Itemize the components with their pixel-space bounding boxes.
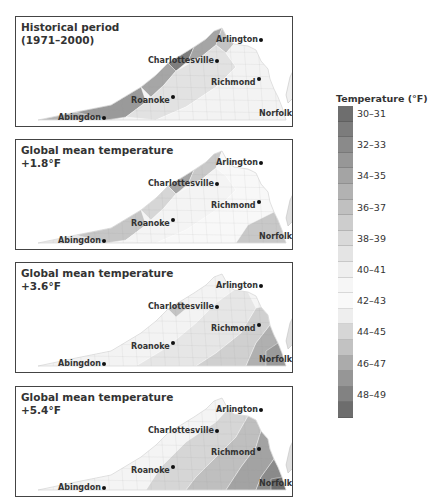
- city-label-richmond: Richmond: [211, 200, 261, 210]
- city-dot-icon: [257, 200, 261, 204]
- city-name: Abingdon: [58, 483, 101, 492]
- map-panel-1: Historical period(1971–2000)ArlingtonCha…: [15, 16, 293, 127]
- map-panel-4: Global mean temperature+5.4°FArlingtonCh…: [15, 386, 293, 497]
- panel-title-line1: Global mean temperature: [21, 267, 173, 280]
- panel-title-line2: +3.6°F: [21, 280, 173, 293]
- legend-band: [338, 402, 353, 418]
- city-name: Norfolk: [259, 232, 292, 241]
- legend-band: [338, 324, 353, 340]
- panel-title: Global mean temperature+1.8°F: [21, 144, 173, 170]
- city-label-abingdon: Abingdon: [58, 359, 106, 368]
- city-dot-icon: [102, 362, 106, 366]
- legend-label: 48–49: [357, 389, 386, 400]
- panel-title-line1: Global mean temperature: [21, 391, 173, 404]
- city-dot-icon: [171, 95, 175, 99]
- city-dot-icon: [259, 408, 263, 412]
- legend-title: Temperature (°F): [336, 93, 428, 104]
- city-label-norfolk: Norfolk: [259, 478, 293, 488]
- city-dot-icon: [215, 305, 219, 309]
- legend-band: [338, 137, 353, 153]
- city-name: Abingdon: [58, 113, 101, 122]
- city-name: Richmond: [211, 448, 256, 457]
- legend-label: 32–33: [357, 139, 386, 150]
- panel-title-line2: (1971–2000): [21, 34, 119, 47]
- city-dot-icon: [171, 465, 175, 469]
- city-dot-icon: [102, 239, 106, 243]
- city-name: Charlottesville: [148, 426, 214, 435]
- city-label-richmond: Richmond: [211, 447, 261, 457]
- legend-label: 30–31: [357, 108, 386, 119]
- city-name: Norfolk: [259, 479, 292, 488]
- legend-label: 42–43: [357, 295, 386, 306]
- city-name: Richmond: [211, 324, 256, 333]
- city-name: Richmond: [211, 78, 256, 87]
- panel-title-line2: +1.8°F: [21, 157, 173, 170]
- city-label-norfolk: Norfolk: [259, 354, 293, 364]
- city-dot-icon: [215, 182, 219, 186]
- legend-label: 46–47: [357, 358, 386, 369]
- legend-band: [338, 371, 353, 387]
- city-label-charlottesville: Charlottesville: [148, 56, 219, 65]
- city-name: Charlottesville: [148, 179, 214, 188]
- legend-band: [338, 293, 353, 309]
- panel-title: Historical period(1971–2000): [21, 21, 119, 47]
- city-dot-icon: [171, 341, 175, 345]
- city-label-abingdon: Abingdon: [58, 113, 106, 122]
- city-dot-icon: [259, 284, 263, 288]
- city-name: Norfolk: [259, 355, 292, 364]
- panel-title-line2: +5.4°F: [21, 404, 173, 417]
- city-dot-icon: [171, 218, 175, 222]
- city-label-richmond: Richmond: [211, 77, 261, 87]
- city-dot-icon: [257, 447, 261, 451]
- legend-band: [338, 153, 353, 169]
- legend-label: 36–37: [357, 202, 386, 213]
- city-name: Roanoke: [131, 219, 170, 228]
- legend-band: [338, 246, 353, 262]
- city-label-roanoke: Roanoke: [131, 465, 175, 475]
- city-label-charlottesville: Charlottesville: [148, 426, 219, 435]
- legend-band: [338, 387, 353, 403]
- legend-band: [338, 168, 353, 184]
- city-name: Abingdon: [58, 359, 101, 368]
- legend-band: [338, 262, 353, 278]
- city-label-arlington: Arlington: [216, 281, 263, 290]
- city-name: Arlington: [216, 281, 258, 290]
- city-label-charlottesville: Charlottesville: [148, 179, 219, 188]
- city-name: Arlington: [216, 35, 258, 44]
- city-label-richmond: Richmond: [211, 323, 261, 333]
- city-dot-icon: [102, 486, 106, 490]
- city-name: Abingdon: [58, 236, 101, 245]
- legend-band: [338, 215, 353, 231]
- legend-band: [338, 340, 353, 356]
- city-name: Richmond: [211, 201, 256, 210]
- city-label-roanoke: Roanoke: [131, 341, 175, 351]
- map-panel-2: Global mean temperature+1.8°FArlingtonCh…: [15, 139, 293, 250]
- city-name: Arlington: [216, 405, 258, 414]
- city-dot-icon: [259, 38, 263, 42]
- city-name: Norfolk: [259, 109, 292, 118]
- map-panel-3: Global mean temperature+3.6°FArlingtonCh…: [15, 262, 293, 373]
- city-label-roanoke: Roanoke: [131, 218, 175, 228]
- city-label-norfolk: Norfolk: [259, 108, 293, 118]
- legend-label: 38–39: [357, 233, 386, 244]
- legend-band: [338, 106, 353, 122]
- city-dot-icon: [215, 59, 219, 63]
- city-name: Arlington: [216, 158, 258, 167]
- city-name: Roanoke: [131, 96, 170, 105]
- legend-band: [338, 278, 353, 294]
- city-label-arlington: Arlington: [216, 158, 263, 167]
- city-name: Charlottesville: [148, 56, 214, 65]
- city-dot-icon: [257, 77, 261, 81]
- legend-band: [338, 184, 353, 200]
- city-label-norfolk: Norfolk: [259, 231, 293, 241]
- city-dot-icon: [259, 161, 263, 165]
- panel-title: Global mean temperature+5.4°F: [21, 391, 173, 417]
- city-name: Roanoke: [131, 466, 170, 475]
- legend-color-bar: [338, 106, 353, 418]
- city-label-arlington: Arlington: [216, 405, 263, 414]
- city-label-abingdon: Abingdon: [58, 483, 106, 492]
- legend-band: [338, 231, 353, 247]
- city-label-abingdon: Abingdon: [58, 236, 106, 245]
- legend-label: 44–45: [357, 326, 386, 337]
- legend-band: [338, 356, 353, 372]
